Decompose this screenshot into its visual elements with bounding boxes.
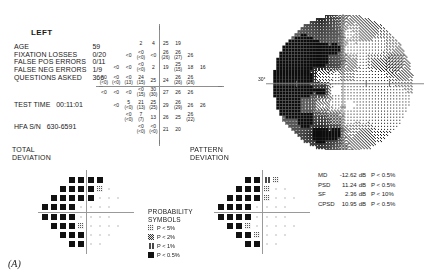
deviation-symbol xyxy=(264,195,270,201)
deviation-symbol xyxy=(97,214,103,220)
deviation-symbol xyxy=(282,232,288,238)
reliability-table: AGE59FIXATION LOSSES0/20FALSE POS ERRORS… xyxy=(14,43,106,82)
threshold-value: 26 xyxy=(175,90,181,95)
global-index-pvalue: P < 0.5% xyxy=(371,172,395,182)
deviation-symbol xyxy=(236,214,242,220)
global-index-value: -12.62 xyxy=(340,172,359,182)
global-index-key: SF xyxy=(318,191,340,201)
threshold-value: <0(<0) xyxy=(137,124,145,134)
deviation-symbol xyxy=(69,214,75,220)
total-deviation-title-line2: DEVIATION xyxy=(12,154,51,162)
deviation-symbol xyxy=(69,195,75,201)
deviation-symbol xyxy=(97,195,103,201)
deviation-symbol xyxy=(282,195,288,201)
threshold-value: 19 xyxy=(163,65,169,70)
global-index-key: PSD xyxy=(318,182,340,192)
threshold-value: 25 xyxy=(163,40,169,45)
serial-value: 630-6591 xyxy=(47,123,77,130)
deviation-symbol xyxy=(69,223,75,229)
threshold-value: <0 xyxy=(126,90,132,95)
deviation-symbol xyxy=(97,223,103,229)
threshold-retest-value: (22) xyxy=(186,117,194,122)
deviation-symbol xyxy=(282,186,288,192)
threshold-retest-value: (15) xyxy=(137,92,145,97)
threshold-retest-value: (13) xyxy=(125,80,133,85)
deviation-symbol xyxy=(51,195,57,201)
threshold-retest-value: (<0) xyxy=(124,117,132,122)
reliability-row: AGE59 xyxy=(14,43,106,51)
deviation-symbol xyxy=(60,204,66,210)
deviation-symbol xyxy=(245,186,251,192)
deviation-symbol xyxy=(51,204,57,210)
global-index-pvalue: P < 10% xyxy=(371,191,395,201)
deviation-symbol xyxy=(227,223,233,229)
threshold-value: <0(<0) xyxy=(100,75,108,85)
global-indices-table: MD-12.62dBP < 0.5%PSD11.24dBP < 0.5%SF2.… xyxy=(318,172,395,210)
numeric-plot-vertical-axis xyxy=(159,24,160,146)
threshold-retest-value: (<0) xyxy=(100,80,108,85)
reliability-row: QUESTIONS ASKED366 xyxy=(14,74,106,82)
threshold-value: 13 xyxy=(151,114,157,119)
reliability-row-label: FALSE NEG ERRORS xyxy=(14,66,92,74)
deviation-symbol xyxy=(69,232,75,238)
threshold-value: <0(15) xyxy=(137,87,145,97)
probability-symbol-row: P < 0.5% xyxy=(148,251,193,259)
deviation-symbol xyxy=(97,232,103,238)
threshold-value: 26(26) xyxy=(162,50,170,60)
reliability-row: FIXATION LOSSES0/20 xyxy=(14,51,106,59)
threshold-value: 26 xyxy=(200,102,206,107)
threshold-value: 2 xyxy=(152,65,155,70)
global-index-unit: dB xyxy=(359,172,371,182)
threshold-value: <0 xyxy=(113,102,119,107)
threshold-retest-value: (26) xyxy=(162,55,170,60)
deviation-symbol xyxy=(245,241,251,247)
deviation-symbol xyxy=(254,204,260,210)
threshold-value: <0(<0) xyxy=(137,62,145,72)
pattern-deviation-title-line2: DEVIATION xyxy=(190,154,229,162)
deviation-symbol xyxy=(88,223,94,229)
threshold-value: <0 xyxy=(101,90,107,95)
threshold-value: 25(15) xyxy=(174,62,182,72)
grayscale-canvas xyxy=(258,12,428,150)
deviation-symbol xyxy=(264,186,270,192)
threshold-value: 21(13) xyxy=(137,100,145,110)
probability-symbol-label: P < 0.5% xyxy=(157,251,180,259)
threshold-value: 24 xyxy=(163,77,169,82)
numeric-plot-tick-bottom xyxy=(159,140,160,144)
pattern-deviation-title: PATTERN DEVIATION xyxy=(190,146,229,162)
deviation-symbol xyxy=(51,223,57,229)
threshold-value: 26(26) xyxy=(174,75,182,85)
threshold-value: <0(<0) xyxy=(124,112,132,122)
deviation-symbol xyxy=(273,204,279,210)
deviation-symbol xyxy=(245,214,251,220)
deviation-symbol xyxy=(236,204,242,210)
probability-symbol-label: P < 5% xyxy=(157,224,175,232)
deviation-symbol xyxy=(264,241,270,247)
deviation-symbol xyxy=(97,177,103,183)
numeric-plot-tick-top xyxy=(159,26,160,30)
threshold-value: <0 xyxy=(126,65,132,70)
probability-symbols-title-line1: PROBABILITY xyxy=(148,208,193,216)
threshold-retest-value: (15) xyxy=(174,67,182,72)
deviation-symbol xyxy=(97,204,103,210)
deviation-symbol xyxy=(78,186,84,192)
figure-label: (A) xyxy=(8,258,21,269)
global-indices: MD-12.62dBP < 0.5%PSD11.24dBP < 0.5%SF2.… xyxy=(318,172,395,210)
threshold-value: 18 xyxy=(188,65,194,70)
threshold-value: 27 xyxy=(163,90,169,95)
global-index-key: CPSD xyxy=(318,201,340,211)
deviation-symbol xyxy=(60,232,66,238)
threshold-value: 26(22) xyxy=(186,112,194,122)
threshold-retest-value: (<0) xyxy=(137,67,145,72)
deviation-symbol xyxy=(88,186,94,192)
threshold-retest-value: (<0) xyxy=(149,129,157,134)
deviation-symbol xyxy=(236,195,242,201)
threshold-value: 16 xyxy=(200,65,206,70)
deviation-symbol xyxy=(60,195,66,201)
deviation-symbol xyxy=(264,232,270,238)
deviation-symbol xyxy=(106,195,112,201)
threshold-retest-value: (25) xyxy=(149,105,157,110)
deviation-symbol xyxy=(78,223,84,229)
threshold-value: <0 xyxy=(150,53,156,58)
threshold-value: <0(13) xyxy=(125,75,133,85)
